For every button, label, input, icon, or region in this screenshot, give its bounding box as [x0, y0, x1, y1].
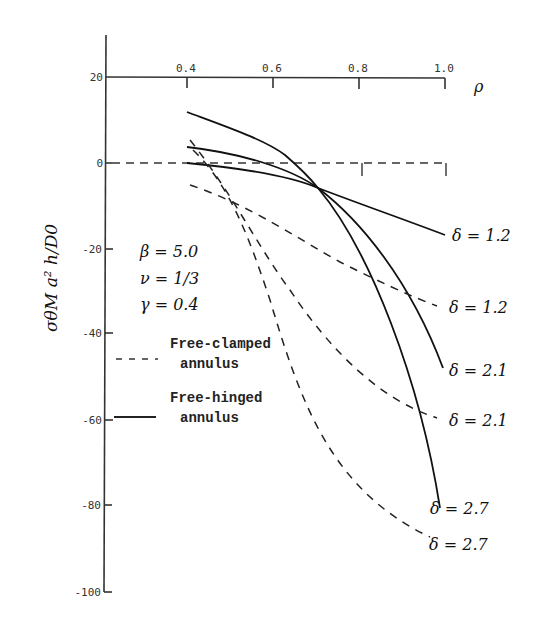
x-axis — [106, 77, 445, 78]
x-tick-label: 0.6 — [262, 62, 282, 75]
zero-reference-line — [112, 163, 446, 176]
y-axis-label: σθM a² h/D0 — [41, 224, 61, 332]
y-tick-label: -20 — [82, 243, 102, 256]
curve-labels: δ = 1.2 δ = 1.2 δ = 2.1 δ = 2.1 δ = 2.7 … — [429, 226, 511, 554]
y-axis — [104, 35, 106, 592]
label-hinged-delta-2.1: δ = 2.1 — [449, 361, 508, 380]
x-tick-label: 0.4 — [176, 62, 196, 75]
x-tick-label: 1.0 — [434, 62, 454, 75]
y-tick-labels: 20 0 -20 -40 -60 -80 -100 — [75, 71, 104, 599]
param-nu: ν = 1/3 — [140, 269, 199, 288]
y-tick-label: 0 — [96, 157, 103, 170]
y-tick-label: -100 — [75, 586, 102, 599]
hinged-delta-2.1-curve — [187, 147, 443, 368]
chart: 0.4 0.6 0.8 1.0 20 0 -20 -40 -60 -80 -10… — [0, 0, 544, 621]
label-hinged-delta-1.2: δ = 1.2 — [452, 226, 511, 245]
hinged-delta-2.7-curve — [187, 112, 440, 508]
y-tick-label: -80 — [81, 499, 101, 512]
x-tick-label: 0.8 — [348, 62, 368, 75]
label-clamped-delta-2.7: δ = 2.7 — [429, 535, 488, 554]
legend-hinged-label: Free-hinged — [170, 390, 262, 406]
y-tick-label: -60 — [82, 414, 102, 427]
parameter-block: β = 5.0 ν = 1/3 γ = 0.4 — [139, 242, 199, 314]
clamped-delta-1.2-curve — [190, 185, 437, 306]
param-gamma: γ = 0.4 — [140, 295, 199, 314]
param-beta: β = 5.0 — [139, 242, 198, 261]
free-hinged-curves — [187, 112, 445, 508]
legend: Free-clamped annulus Free-hinged annulus — [114, 336, 271, 426]
x-tick-labels: 0.4 0.6 0.8 1.0 — [176, 62, 454, 75]
legend-hinged-label-2: annulus — [180, 410, 239, 426]
legend-clamped-label: Free-clamped — [170, 336, 271, 352]
label-clamped-delta-2.1: δ = 2.1 — [449, 411, 508, 430]
hinged-delta-1.2-curve — [187, 163, 445, 235]
label-hinged-delta-2.7: δ = 2.7 — [430, 499, 489, 518]
legend-clamped-label-2: annulus — [180, 356, 239, 372]
y-tick-label: -40 — [82, 327, 102, 340]
label-clamped-delta-1.2: δ = 1.2 — [449, 298, 508, 317]
x-axis-label: ρ — [473, 77, 484, 96]
y-tick-label: 20 — [90, 71, 103, 84]
